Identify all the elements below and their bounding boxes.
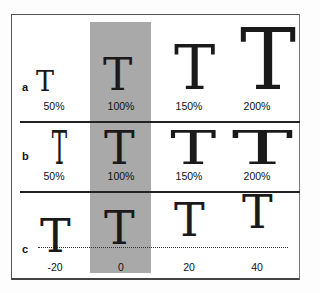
glyph-c-40: T [242,189,273,235]
caption-a-150: 150% [164,100,214,112]
row-label-a: a [22,81,28,93]
row-label-c: c [22,243,28,255]
glyph-b-100: T [104,125,135,171]
caption-c-20: 20 [164,261,214,273]
glyph-c-minus20: T [40,213,71,259]
glyph-c-0: T [104,205,135,251]
glyph-c-20: T [174,197,205,243]
baseline-dotted-line [38,247,288,248]
row-label-b: b [22,150,29,162]
caption-b-50: 50% [29,170,79,182]
glyph-b-200: T [232,125,293,171]
caption-a-200: 200% [232,100,282,112]
caption-b-150: 150% [164,170,214,182]
caption-c-minus20: -20 [30,261,80,273]
glyph-a-50: T [36,68,54,95]
glyph-a-150: T [174,37,215,99]
glyph-b-50: T [52,125,67,171]
caption-b-100: 100% [96,170,146,182]
caption-c-0: 0 [96,261,146,273]
caption-b-200: 200% [232,170,282,182]
caption-a-100: 100% [96,100,146,112]
caption-a-50: 50% [29,100,79,112]
caption-c-40: 40 [232,261,282,273]
glyph-a-100: T [103,53,132,97]
glyph-a-200: T [240,18,296,102]
glyph-b-150: T [170,125,216,171]
